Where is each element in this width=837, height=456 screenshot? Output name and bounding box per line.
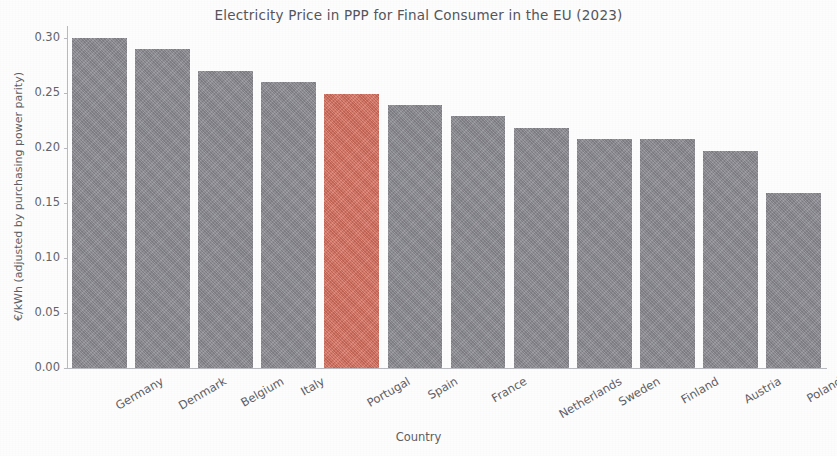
bar-belgium: [198, 71, 253, 368]
y-tick: 0.15: [0, 203, 68, 204]
bar-italy: [261, 82, 316, 368]
y-tick-label: 0.05: [34, 305, 60, 319]
bar-austria: [703, 151, 758, 368]
y-tick: 0.20: [0, 148, 68, 149]
bar-finland: [640, 139, 695, 368]
bar-sweden: [577, 139, 632, 368]
x-tick-label-finland: Finland: [679, 374, 722, 407]
y-tick-label: 0.30: [34, 30, 60, 44]
x-tick-label-denmark: Denmark: [176, 374, 229, 413]
y-tick-label: 0.15: [34, 195, 60, 209]
bar-france: [451, 116, 506, 368]
y-tick-label: 0.10: [34, 250, 60, 264]
plot-area: [68, 30, 825, 368]
y-tick: 0.05: [0, 313, 68, 314]
y-axis-label: €/kWh (adjusted by purchasing power pari…: [12, 37, 25, 357]
y-tick: 0.25: [0, 93, 68, 94]
x-axis-label: Country: [0, 430, 837, 444]
x-tick-label-sweden: Sweden: [616, 374, 662, 409]
x-tick-label-belgium: Belgium: [238, 374, 286, 410]
x-tick-label-netherlands: Netherlands: [557, 374, 625, 421]
bar-germany: [72, 38, 127, 368]
chart-title: Electricity Price in PPP for Final Consu…: [0, 7, 837, 23]
bar-denmark: [135, 49, 190, 368]
y-tick-label: 0.20: [34, 140, 60, 154]
y-tick: 0.00: [0, 368, 68, 369]
x-tick-label-spain: Spain: [425, 374, 460, 402]
x-tick-label-portugal: Portugal: [364, 374, 412, 410]
x-tick-label-italy: Italy: [298, 374, 327, 399]
y-axis-line: [67, 26, 68, 369]
chart-figure: Electricity Price in PPP for Final Consu…: [0, 0, 837, 456]
x-tick-label-france: France: [489, 374, 529, 405]
x-axis-line: [67, 368, 827, 369]
y-tick-label: 0.25: [34, 85, 60, 99]
x-tick-label-poland: Poland: [805, 374, 837, 405]
x-tick-label-germany: Germany: [113, 374, 166, 413]
x-tick-label-austria: Austria: [742, 374, 784, 406]
y-tick: 0.10: [0, 258, 68, 259]
bars-container: [68, 30, 825, 368]
y-tick: 0.30: [0, 38, 68, 39]
y-tick-label: 0.00: [34, 360, 60, 374]
bar-netherlands: [514, 128, 569, 368]
bar-portugal: [324, 94, 379, 368]
bar-spain: [388, 105, 443, 368]
bar-poland: [766, 193, 821, 368]
